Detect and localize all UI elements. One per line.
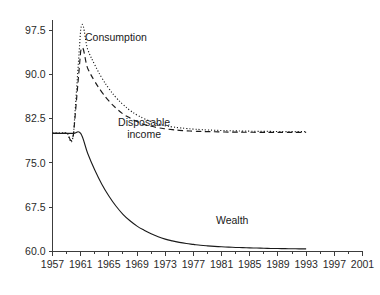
x-tick-label: 1973: [154, 258, 178, 270]
x-tick-label: 2001: [351, 258, 375, 270]
x-tick-label: 1993: [294, 258, 318, 270]
x-tick-label: 1961: [69, 258, 93, 270]
y-tick-label: 90.0: [25, 68, 46, 80]
x-tick-label: 1957: [41, 258, 65, 270]
series-label-disposable-income: Disposableincome: [118, 116, 170, 140]
series-label-wealth: Wealth: [216, 214, 249, 226]
x-axis: 1957196119651969197319771981198519891993…: [41, 252, 375, 270]
y-axis: 60.067.575.082.590.097.5: [25, 20, 52, 257]
y-tick-label: 67.5: [25, 201, 46, 213]
series-label-consumption: Consumption: [85, 31, 147, 43]
y-tick-label: 97.5: [25, 24, 46, 36]
y-tick-label: 60.0: [25, 245, 46, 257]
chart-container: 60.067.575.082.590.097.5 195719611965196…: [0, 0, 380, 295]
series-line-disposable-income: [53, 48, 307, 141]
x-tick-label: 1989: [266, 258, 290, 270]
y-tick-label: 75.0: [25, 157, 46, 169]
series-lines: [53, 24, 307, 248]
x-tick-label: 1981: [210, 258, 234, 270]
x-tick-label: 1977: [182, 258, 206, 270]
line-chart: 60.067.575.082.590.097.5 195719611965196…: [0, 0, 380, 295]
x-tick-label: 1969: [125, 258, 149, 270]
series-line-wealth: [53, 132, 307, 249]
x-tick-label: 1997: [323, 258, 347, 270]
x-tick-label: 1965: [97, 258, 121, 270]
x-tick-label: 1985: [238, 258, 262, 270]
y-tick-label: 82.5: [25, 112, 46, 124]
